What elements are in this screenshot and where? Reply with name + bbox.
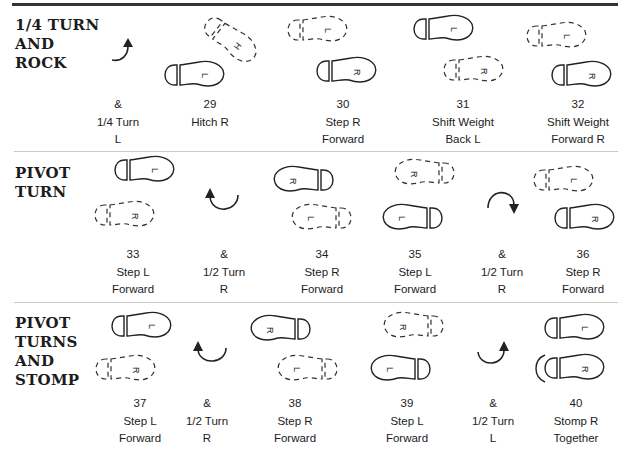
svg-text:L: L — [449, 27, 459, 32]
half-turn-right-arrow-icon — [193, 341, 226, 361]
svg-text:R: R — [590, 216, 600, 223]
stomp-bracket-icon — [536, 355, 545, 382]
foot-left-solid-icon: L — [545, 314, 604, 339]
half-turn-left-arrow-icon — [478, 341, 509, 363]
svg-text:L: L — [580, 326, 590, 331]
svg-text:R: R — [580, 366, 590, 373]
svg-text:R: R — [587, 73, 597, 80]
foot-left-solid-icon: L — [112, 312, 171, 337]
footprint-diagram: L H L R L R L R L R — [0, 0, 628, 450]
svg-text:R: R — [265, 327, 275, 334]
foot-left-solid-icon: L — [165, 61, 224, 86]
foot-left-dashed-icon: L — [292, 204, 351, 229]
svg-text:L: L — [306, 216, 316, 221]
foot-left-solid-icon: L — [383, 204, 442, 229]
foot-right-dashed-icon: R — [444, 56, 503, 81]
foot-right-solid-icon: R — [555, 204, 614, 229]
foot-hitch-dashed-icon: H — [200, 11, 261, 66]
foot-left-solid-icon: L — [414, 15, 473, 40]
svg-text:L: L — [150, 168, 160, 173]
foot-right-dashed-icon: R — [96, 355, 155, 380]
svg-text:R: R — [409, 171, 419, 178]
svg-text:H: H — [232, 41, 244, 52]
foot-right-solid-icon: R — [274, 166, 333, 191]
foot-right-dashed-icon: R — [384, 312, 443, 337]
svg-text:R: R — [288, 178, 298, 185]
svg-text:L: L — [569, 178, 579, 183]
svg-text:L: L — [200, 73, 210, 78]
svg-text:R: R — [352, 69, 362, 76]
half-turn-right-arrow-icon — [205, 188, 238, 209]
half-turn-right-arrow-icon — [488, 193, 519, 214]
svg-text:R: R — [130, 213, 140, 220]
foot-left-dashed-icon: L — [288, 16, 347, 41]
foot-left-solid-icon: L — [115, 156, 174, 181]
foot-right-dashed-icon: R — [395, 159, 454, 184]
svg-text:L: L — [292, 367, 302, 372]
svg-text:L: L — [147, 324, 157, 329]
svg-text:R: R — [131, 367, 141, 374]
foot-left-solid-icon: L — [371, 355, 430, 380]
foot-right-solid-icon: R — [545, 354, 604, 379]
svg-text:L: L — [323, 28, 333, 33]
foot-left-dashed-icon: L — [534, 166, 593, 191]
quarter-turn-left-arrow-icon — [112, 38, 133, 60]
svg-text:L: L — [385, 367, 395, 372]
svg-text:L: L — [562, 34, 572, 39]
svg-text:L: L — [397, 216, 407, 221]
svg-text:R: R — [398, 324, 408, 331]
svg-text:R: R — [479, 68, 489, 75]
foot-right-dashed-icon: R — [95, 201, 154, 226]
foot-right-solid-icon: R — [251, 315, 310, 340]
foot-left-dashed-icon: L — [278, 355, 337, 380]
foot-right-solid-icon: R — [552, 61, 611, 86]
foot-right-solid-icon: R — [317, 57, 376, 82]
foot-left-dashed-icon: L — [527, 22, 586, 47]
